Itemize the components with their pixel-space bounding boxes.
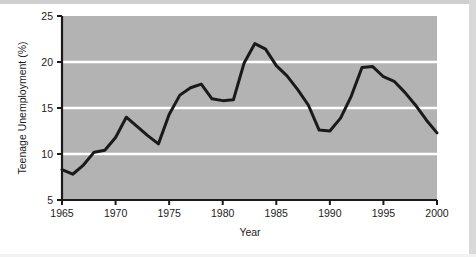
y-axis-title: Teenage Unemployment (%): [16, 41, 28, 174]
x-axis-ticks-group: 19651970197519801985199019952000: [50, 200, 449, 219]
y-tick-label-15: 15: [41, 102, 53, 114]
x-axis-title: Year: [239, 226, 261, 238]
chart-figure: 510152025 196519701975198019851990199520…: [0, 0, 476, 257]
line-chart: 510152025 196519701975198019851990199520…: [0, 0, 476, 257]
x-tick-label-1995: 1995: [372, 207, 396, 219]
y-axis-ticks-group: 510152025: [41, 10, 62, 206]
y-tick-label-25: 25: [41, 10, 53, 22]
y-tick-label-20: 20: [41, 56, 53, 68]
x-tick-label-1990: 1990: [318, 207, 342, 219]
y-tick-label-5: 5: [47, 194, 53, 206]
x-tick-label-2000: 2000: [425, 207, 449, 219]
x-tick-label-1980: 1980: [211, 207, 235, 219]
x-tick-label-1970: 1970: [104, 207, 128, 219]
x-tick-label-1985: 1985: [265, 207, 289, 219]
x-tick-label-1965: 1965: [50, 207, 74, 219]
y-tick-label-10: 10: [41, 148, 53, 160]
x-tick-label-1975: 1975: [157, 207, 181, 219]
